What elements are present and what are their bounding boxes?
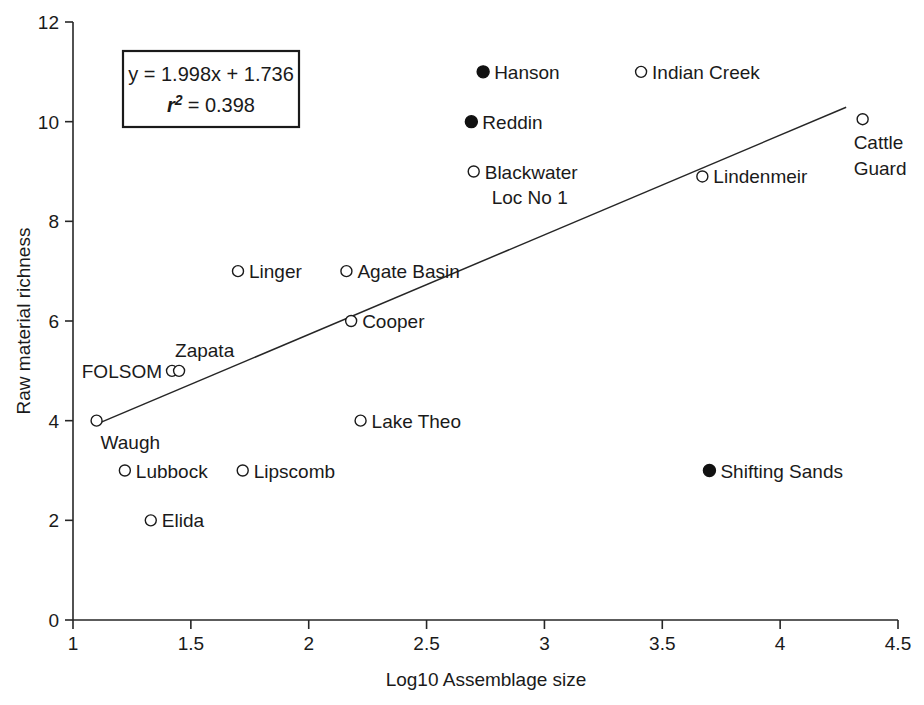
data-point-label: FOLSOM [82,361,162,382]
x-axis-title: Log10 Assemblage size [386,669,587,690]
x-tick-label: 1 [68,633,79,654]
x-tick-label: 4 [775,633,786,654]
data-point-marker [857,114,868,125]
data-point-marker [91,415,102,426]
x-tick-label: 2.5 [413,633,439,654]
data-point-label: Loc No 1 [492,187,568,208]
r-value: = 0.398 [188,94,255,116]
x-tick-label: 2 [303,633,314,654]
x-axis-ticks: 11.522.533.544.5 [68,620,912,654]
x-tick-label: 3 [539,633,550,654]
y-tick-label: 6 [48,311,59,332]
data-point-label: Lake Theo [372,411,461,432]
data-point-marker [346,316,357,327]
data-point-label: Waugh [101,432,161,453]
data-point-label: Guard [854,158,907,179]
data-point-label: Zapata [175,340,235,361]
data-point-label: Lubbock [136,461,208,482]
data-point-marker [477,66,489,78]
data-point-marker [697,171,708,182]
data-point-label: Cooper [362,311,425,332]
data-point-marker [341,266,352,277]
data-point-label: Hanson [494,62,559,83]
plot-canvas: 024681012 11.522.533.544.5 Raw material … [0,0,924,705]
data-point: Hanson [477,62,559,83]
data-point-marker [233,266,244,277]
data-point: Linger [233,261,303,282]
data-points-layer: HansonIndian CreekReddinCattleGuardBlack… [82,62,907,531]
data-point-marker [237,465,248,476]
y-axis-title: Raw material richness [13,228,34,415]
x-tick-label: 4.5 [885,633,911,654]
data-point-label: Elida [162,510,205,531]
scatter-plot-figure: 024681012 11.522.533.544.5 Raw material … [0,0,924,705]
y-tick-label: 2 [48,510,59,531]
data-point-label: Blackwater [485,162,579,183]
data-point: Shifting Sands [703,461,843,482]
data-point: BlackwaterLoc No 1 [468,162,578,208]
r-exponent: 2 [174,92,183,108]
equation-text: y = 1.998x + 1.736 [128,63,294,85]
data-point-label: Shifting Sands [720,461,843,482]
data-point: CattleGuard [854,114,907,180]
data-point: Lindenmeir [697,166,808,187]
data-point: Reddin [465,112,542,133]
regression-trendline [97,107,847,424]
data-point-label: Lindenmeir [713,166,808,187]
data-point-label: Indian Creek [652,62,760,83]
data-point-marker [636,66,647,77]
data-point-marker [703,465,715,477]
data-point-label: Reddin [482,112,542,133]
data-point: FOLSOM [82,361,178,382]
data-point: Indian Creek [636,62,761,83]
data-point-label: Agate Basin [357,261,459,282]
data-point: Agate Basin [341,261,460,282]
data-point: Lake Theo [355,411,461,432]
y-tick-label: 12 [38,12,59,33]
data-point-label: Linger [249,261,302,282]
y-tick-label: 10 [38,112,59,133]
y-axis-ticks: 024681012 [38,12,73,631]
data-point-marker [468,166,479,177]
data-point: Zapata [174,340,235,377]
data-point-marker [145,515,156,526]
data-point: Lubbock [119,461,208,482]
y-tick-label: 0 [48,610,59,631]
x-tick-label: 1.5 [178,633,204,654]
y-tick-label: 8 [48,211,59,232]
x-tick-label: 3.5 [649,633,675,654]
data-point: Waugh [91,415,160,453]
data-point-label: Lipscomb [254,461,335,482]
y-tick-label: 4 [48,411,59,432]
data-point-marker [465,116,477,128]
data-point: Lipscomb [237,461,335,482]
data-point: Elida [145,510,204,531]
data-point-marker [119,465,130,476]
data-point-marker [174,365,185,376]
data-point-label: Cattle [854,132,904,153]
data-point-marker [355,415,366,426]
equation-annotation-box: y = 1.998x + 1.736 r2= 0.398 [123,51,299,127]
